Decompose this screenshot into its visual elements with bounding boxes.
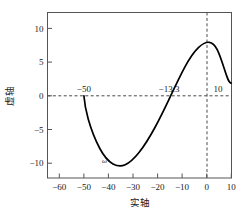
y-axis-tickmarks [48,28,53,163]
zero-crossing-label: −13.3 [159,84,180,94]
start-point-label: −50 [77,84,92,94]
x-tick-label-6: 0 [204,182,209,192]
nyquist-chart-figure: −60 −50 −40 −30 −20 −10 0 10 −10 −5 0 5 … [0,0,243,213]
x-axis-title: 实轴 [130,197,150,208]
end-point-label: 10 [214,84,224,94]
x-tick-label-0: −60 [52,182,67,192]
x-tick-label-5: −10 [175,182,190,192]
x-tick-label-4: −20 [151,182,166,192]
y-tick-label-0: −10 [29,158,44,168]
nyquist-locus-curve [84,42,231,166]
x-tick-label-2: −40 [101,182,116,192]
frequency-direction-label: ω [102,157,107,165]
chart-canvas: −60 −50 −40 −30 −20 −10 0 10 −10 −5 0 5 … [0,0,243,213]
x-tick-label-7: 10 [227,182,237,192]
y-tick-label-1: −5 [34,125,44,135]
y-tick-label-3: 5 [39,57,44,67]
x-tick-label-3: −30 [126,182,141,192]
x-tick-label-1: −50 [77,182,92,192]
y-tick-label-2: 0 [39,91,44,101]
x-axis-tickmarks [59,174,231,179]
y-axis-title: 虚轴 [4,86,15,106]
y-tick-label-4: 10 [35,24,45,34]
